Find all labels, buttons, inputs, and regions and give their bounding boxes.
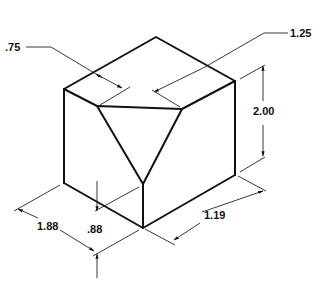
label-125: 1.25: [290, 27, 311, 39]
label-119: 1.19: [204, 209, 225, 221]
label-200: 2.00: [253, 105, 274, 117]
dimension-088: .88: [87, 181, 139, 278]
dimension-075: .75: [5, 41, 130, 105]
label-075: .75: [5, 41, 20, 53]
isometric-drawing: .75 1.25 2.00 1.19 1.88 .88: [0, 0, 329, 282]
dimension-200: 2.00: [240, 65, 274, 172]
dimension-119: 1.19: [145, 176, 266, 245]
label-088: .88: [87, 223, 102, 235]
dimension-188: 1.88: [14, 185, 139, 256]
dimension-125: 1.25: [152, 27, 311, 107]
triangular-cut: [64, 81, 235, 184]
label-188: 1.88: [37, 220, 58, 232]
cube-outline: [64, 37, 235, 228]
